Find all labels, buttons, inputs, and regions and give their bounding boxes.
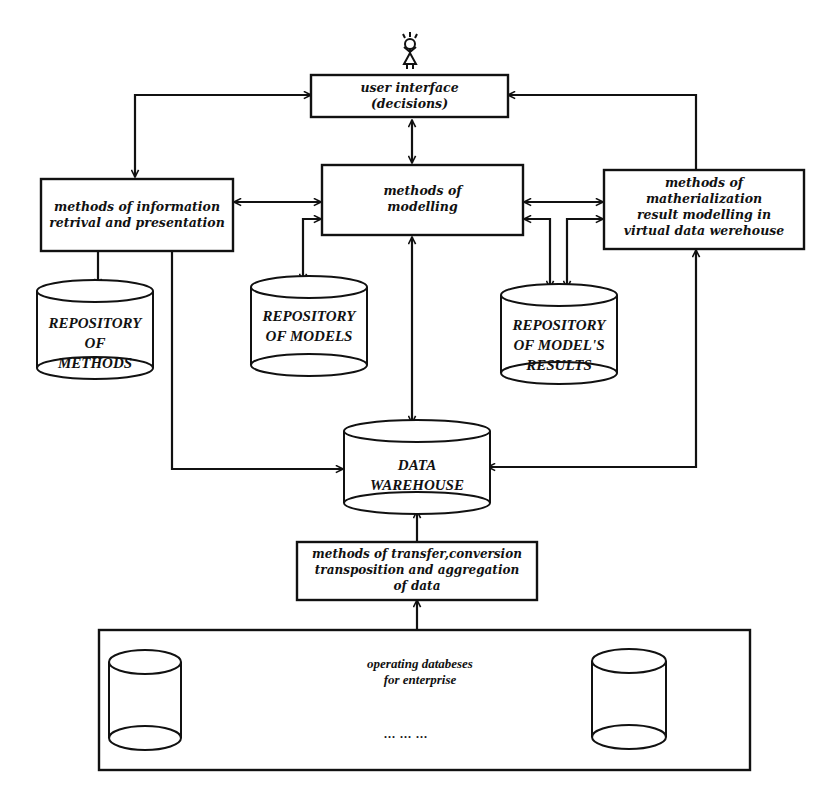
- data-warehouse-label: DATA WAREHOUSE: [344, 455, 490, 495]
- transfer-label: methods of transfer,conversion transposi…: [297, 546, 537, 594]
- stick-figure-user-icon: [403, 32, 417, 69]
- repository-of-methods-label: REPOSITORY OF METHODS: [37, 313, 153, 373]
- modelling-label: methods of modelling: [322, 183, 523, 215]
- diagram-canvas: [0, 0, 830, 811]
- user-interface-label: user interface (decisions): [311, 80, 508, 112]
- info-retrieval-label: methods of information retrival and pres…: [41, 199, 233, 231]
- repository-of-models-label: REPOSITORY OF MODELS: [251, 306, 367, 346]
- operating-database-cylinder-right[interactable]: [592, 649, 666, 749]
- operating-databases-label: operating databeses for enterprise: [320, 656, 520, 688]
- more-databases-ellipsis: ... ... ...: [384, 727, 428, 742]
- repository-of-results-label: REPOSITORY OF MODEL'S RESULTS: [501, 315, 617, 375]
- materialization-label: methods of matherialization result model…: [604, 175, 804, 239]
- operating-database-cylinder-left[interactable]: [109, 650, 181, 750]
